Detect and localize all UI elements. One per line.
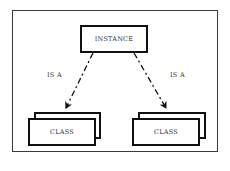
instance-label: INSTANCE [95,35,133,43]
right-class-label: CLASS [154,128,178,136]
instance-box: INSTANCE [80,25,148,53]
right-class-box: CLASS [132,118,200,146]
left-is-a-label: IS A [47,71,62,79]
left-class-label: CLASS [50,128,74,136]
left-class-box: CLASS [28,118,96,146]
right-is-a-label: IS A [170,71,185,79]
